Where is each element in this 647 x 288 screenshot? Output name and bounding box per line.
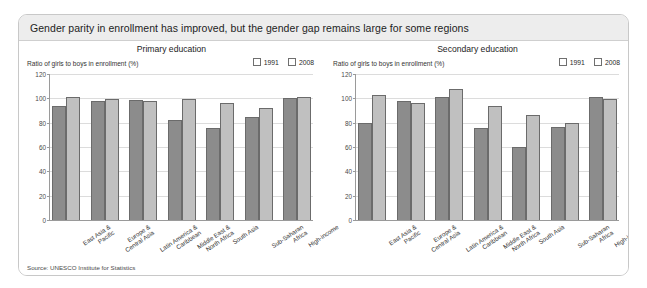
chart-title-secondary: Secondary education xyxy=(325,44,629,54)
y-axis-caption-primary: Ratio of girls to boys in enrollment (%) xyxy=(27,60,138,67)
bars-layer xyxy=(356,74,619,220)
bar[interactable] xyxy=(589,97,603,220)
legend-entry-2008-primary[interactable]: 2008 xyxy=(288,58,314,66)
figure-header: Gender parity in enrollment has improved… xyxy=(19,15,628,41)
source-note: Source: UNESCO Institute for Statistics xyxy=(27,264,135,271)
legend-label-2008: 2008 xyxy=(605,59,620,66)
y-tick-label: 20 xyxy=(39,192,46,199)
bar[interactable] xyxy=(283,98,297,220)
figure-card: Gender parity in enrollment has improved… xyxy=(18,14,629,276)
y-tick-label: 120 xyxy=(341,71,352,78)
legend-label-1991: 1991 xyxy=(264,59,279,66)
legend-secondary: 1991 2008 xyxy=(559,58,620,66)
bar[interactable] xyxy=(488,106,502,220)
x-axis-category-label: Middle East &North Africa xyxy=(501,223,541,257)
plot-area-primary: 020406080100120 xyxy=(49,74,313,221)
legend-primary: 1991 2008 xyxy=(253,58,314,66)
bar[interactable] xyxy=(565,123,579,220)
chart-panel-secondary: Secondary education Ratio of girls to bo… xyxy=(325,41,629,275)
x-axis-category-label: Latin America &Caribbean xyxy=(465,223,509,260)
y-tick-label: 40 xyxy=(345,168,352,175)
legend-label-1991: 1991 xyxy=(570,59,585,66)
bar[interactable] xyxy=(372,95,386,220)
x-axis-category-label: Sub-SaharanAfrica xyxy=(576,223,615,256)
y-tick-label: 100 xyxy=(341,95,352,102)
bar-group xyxy=(206,74,234,220)
bar-group xyxy=(435,74,463,220)
bar[interactable] xyxy=(411,103,425,220)
legend-entry-1991-secondary[interactable]: 1991 xyxy=(559,58,585,66)
x-axis-category-label: East Asia &Pacific xyxy=(387,223,422,253)
bar-group xyxy=(589,74,617,220)
chart-title-primary: Primary education xyxy=(19,44,324,54)
x-axis-category-label: East Asia &Pacific xyxy=(81,223,116,253)
legend-label-2008: 2008 xyxy=(299,59,314,66)
x-axis-category-label: Europe &Central Asia xyxy=(425,223,461,254)
y-tick-label: 60 xyxy=(39,144,46,151)
x-axis-category-label: Sub-SaharanAfrica xyxy=(270,223,309,256)
chart-panel-primary: Primary education Ratio of girls to boys… xyxy=(19,41,324,275)
bar[interactable] xyxy=(551,127,565,220)
bar[interactable] xyxy=(245,117,259,220)
y-tick-label: 80 xyxy=(345,119,352,126)
y-tick-label: 80 xyxy=(39,119,46,126)
bar[interactable] xyxy=(52,106,66,220)
bar-group xyxy=(512,74,540,220)
bars-layer xyxy=(50,74,313,220)
bar[interactable] xyxy=(358,123,372,220)
category-labels-secondary: East Asia &PacificEurope &Central AsiaLa… xyxy=(355,223,619,275)
bar-group xyxy=(358,74,386,220)
bar[interactable] xyxy=(66,97,80,220)
legend-entry-2008-secondary[interactable]: 2008 xyxy=(594,58,620,66)
bar-group xyxy=(397,74,425,220)
bar[interactable] xyxy=(397,101,411,220)
bar[interactable] xyxy=(91,101,105,220)
legend-entry-1991-primary[interactable]: 1991 xyxy=(253,58,279,66)
y-tick-label: 40 xyxy=(39,168,46,175)
y-tick-label: 0 xyxy=(348,217,352,224)
plot-area-secondary: 020406080100120 xyxy=(355,74,619,221)
bar[interactable] xyxy=(603,99,617,220)
bar-group xyxy=(91,74,119,220)
y-tick-label: 20 xyxy=(345,192,352,199)
bar[interactable] xyxy=(182,99,196,220)
bar-group xyxy=(474,74,502,220)
figure-body: Primary education Ratio of girls to boys… xyxy=(19,41,628,275)
x-axis-category-label: South Asia xyxy=(537,223,566,246)
bar[interactable] xyxy=(220,103,234,220)
y-tick-mark xyxy=(353,220,356,221)
x-axis-category-label: High-income xyxy=(613,223,629,249)
bar-group xyxy=(551,74,579,220)
figure-title: Gender parity in enrollment has improved… xyxy=(30,22,469,34)
bar[interactable] xyxy=(129,100,143,220)
y-tick-label: 0 xyxy=(42,217,46,224)
legend-swatch-1991-icon xyxy=(253,58,261,66)
bar-group xyxy=(283,74,311,220)
x-axis-category-label: Middle East &North Africa xyxy=(195,223,235,257)
bar-group xyxy=(168,74,196,220)
bar[interactable] xyxy=(168,120,182,220)
bar[interactable] xyxy=(526,115,540,220)
y-tick-mark xyxy=(47,220,50,221)
bar[interactable] xyxy=(259,108,273,220)
bar-group xyxy=(52,74,80,220)
bar[interactable] xyxy=(512,147,526,220)
y-axis-caption-secondary: Ratio of girls to boys in enrollment (%) xyxy=(333,60,444,67)
y-tick-label: 60 xyxy=(345,144,352,151)
legend-swatch-2008-icon xyxy=(594,58,602,66)
bar[interactable] xyxy=(105,99,119,220)
y-tick-label: 100 xyxy=(35,95,46,102)
legend-swatch-2008-icon xyxy=(288,58,296,66)
bar[interactable] xyxy=(206,128,220,220)
legend-swatch-1991-icon xyxy=(559,58,567,66)
bar[interactable] xyxy=(435,97,449,220)
bar-group xyxy=(245,74,273,220)
x-axis-category-label: South Asia xyxy=(231,223,260,246)
bar-group xyxy=(129,74,157,220)
y-tick-label: 120 xyxy=(35,71,46,78)
bar[interactable] xyxy=(297,97,311,220)
x-axis-category-label: Latin America &Caribbean xyxy=(159,223,203,260)
bar[interactable] xyxy=(449,89,463,220)
bar[interactable] xyxy=(143,101,157,220)
bar[interactable] xyxy=(474,128,488,220)
